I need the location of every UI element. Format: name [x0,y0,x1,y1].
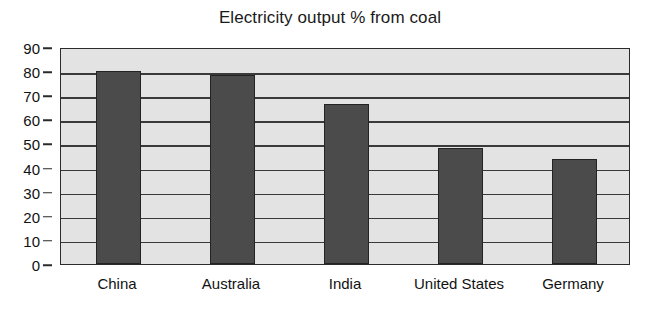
bar [96,71,141,264]
bar [552,159,597,264]
y-tick-label: 30 [23,184,40,201]
bar [438,148,483,264]
y-tick-mark [43,95,52,97]
plot-area [60,48,630,265]
x-tick-label: Germany [542,275,604,292]
y-tick-mark [43,47,52,49]
y-tick-label: 20 [23,208,40,225]
y-tick-label: 10 [23,232,40,249]
bar [210,75,255,264]
y-tick-label: 50 [23,136,40,153]
y-tick-mark [43,264,52,266]
y-tick-mark [43,144,52,146]
y-tick-mark [43,71,52,73]
x-tick-label: Australia [202,275,260,292]
x-tick-label: United States [414,275,504,292]
y-tick-mark [43,168,52,170]
gridline [61,73,629,75]
x-tick-label: China [97,275,136,292]
y-tick-label: 0 [32,257,40,274]
y-tick-mark [43,192,52,194]
y-tick-label: 90 [23,40,40,57]
y-axis: 0102030405060708090 [0,48,52,265]
bar [324,104,369,264]
chart-title: Electricity output % from coal [0,8,660,28]
y-tick-label: 80 [23,64,40,81]
y-tick-mark [43,120,52,122]
chart-figure: Electricity output % from coal 010203040… [0,0,660,330]
x-axis: ChinaAustraliaIndiaUnited StatesGermany [60,275,630,299]
y-tick-label: 70 [23,88,40,105]
y-tick-label: 40 [23,160,40,177]
gridline [61,97,629,99]
y-tick-mark [43,216,52,218]
y-tick-label: 60 [23,112,40,129]
x-tick-label: India [329,275,362,292]
y-tick-mark [43,240,52,242]
